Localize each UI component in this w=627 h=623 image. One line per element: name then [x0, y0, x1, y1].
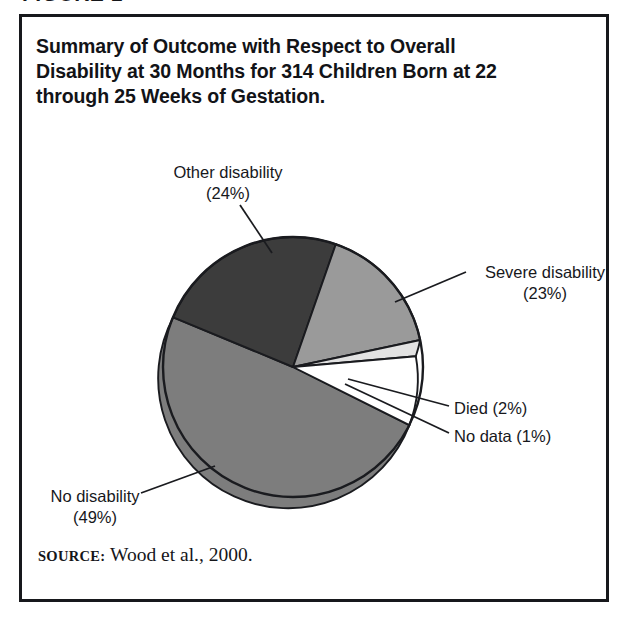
pie-label-died: Died (2%) — [454, 398, 527, 419]
figure-source: SOURCE: Wood et al., 2000. — [38, 544, 253, 566]
figure-number-caption: FIGURE 1 — [22, 0, 123, 4]
pie-label-no-disability-name: No disability — [51, 487, 140, 505]
pie-label-severe-disability-name: Severe disability — [485, 263, 605, 281]
figure-source-kicker: SOURCE: — [38, 548, 105, 564]
figure-title-line-2: Disability at 30 Months for 314 Children… — [36, 59, 556, 84]
figure-title-line-1: Summary of Outcome with Respect to Overa… — [36, 34, 556, 59]
figure-title-line-3: through 25 Weeks of Gestation. — [36, 84, 556, 109]
pie-label-no-disability-percent: (49%) — [22, 507, 168, 528]
figure-source-text: Wood et al., 2000. — [110, 544, 253, 565]
pie-label-other-disability-percent: (24%) — [146, 183, 310, 204]
figure-title: Summary of Outcome with Respect to Overa… — [36, 34, 556, 109]
pie-label-other-disability: Other disability (24%) — [146, 162, 310, 204]
pie-label-no-data: No data (1%) — [454, 426, 551, 447]
pie-label-severe-disability-percent: (23%) — [470, 283, 620, 304]
pie-label-severe-disability: Severe disability (23%) — [470, 262, 620, 304]
pie-label-other-disability-name: Other disability — [173, 163, 282, 181]
pie-label-no-disability: No disability (49%) — [22, 486, 168, 528]
